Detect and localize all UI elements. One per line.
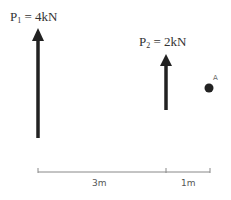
point-a-label: A [213,74,218,82]
dimension-line [38,168,210,173]
force-subscript: 1 [17,16,21,25]
diagram-canvas [0,0,231,200]
force-subscript: 2 [146,41,150,50]
force-label-p2: P2 = 2kN [139,34,186,50]
force-arrow-p2 [160,54,172,110]
dimension-label-3m: 3m [92,178,107,188]
force-label-p1: P1 = 4kN [10,9,57,25]
force-value: = 2kN [150,34,186,49]
point-a-marker [205,84,214,93]
force-value: = 4kN [21,9,57,24]
dimension-label-1m: 1m [181,178,196,188]
force-arrow-p1 [32,28,44,138]
